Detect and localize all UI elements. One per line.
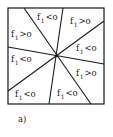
region-lower-right-label: f1>o	[76, 69, 97, 78]
region-top-right-label: f1>o	[70, 17, 91, 26]
center-point	[56, 55, 59, 58]
region-bottom-left-label: f1<o	[15, 90, 36, 99]
region-top-label: f1<o	[37, 13, 58, 22]
figure-caption: a)	[18, 114, 26, 124]
region-left-label: f1<o	[11, 55, 32, 64]
sign-region-diagram: f1<of1>of1>of1<of1<of1>of1<of1<o a)	[0, 0, 113, 137]
region-bottom-label: f1<o	[57, 89, 78, 98]
region-right-label: f1<o	[76, 44, 97, 53]
region-upper-left-label: f1>o	[11, 30, 32, 39]
